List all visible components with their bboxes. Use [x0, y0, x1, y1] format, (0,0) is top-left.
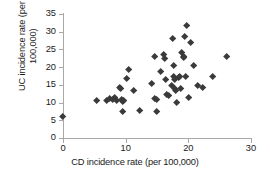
y-tick-label: 30: [16, 27, 56, 36]
data-point: [153, 108, 161, 116]
data-point: [183, 22, 191, 30]
plot-area: [63, 14, 251, 138]
data-point: [190, 62, 198, 70]
data-point: [186, 39, 194, 47]
y-tick-label: 35: [16, 9, 56, 18]
x-tick-label: 10: [111, 144, 141, 153]
data-point: [59, 113, 67, 121]
y-tick-label: 20: [16, 63, 56, 72]
y-tick-label: 0: [16, 133, 56, 142]
y-tick-label: 10: [16, 98, 56, 107]
data-point: [209, 73, 217, 81]
data-point: [223, 53, 231, 61]
data-point: [151, 53, 159, 61]
data-point: [119, 108, 127, 116]
data-point: [199, 84, 207, 92]
scatter-chart-figure: UC incidence rate (per 100,000) 05101520…: [0, 0, 270, 178]
data-point: [169, 35, 177, 43]
x-tick-label: 30: [236, 144, 266, 153]
data-point: [162, 75, 170, 83]
data-point: [123, 75, 131, 83]
data-point: [185, 94, 193, 102]
data-point: [148, 80, 156, 88]
x-axis-title: CD incidence rate (per 100,000): [0, 157, 270, 167]
y-tick-label: 25: [16, 45, 56, 54]
data-point: [173, 99, 181, 107]
x-tick-label: 0: [48, 144, 78, 153]
data-point: [181, 33, 189, 41]
data-point: [130, 87, 138, 95]
data-point: [136, 107, 144, 115]
data-point: [157, 68, 165, 76]
data-point: [161, 55, 169, 63]
data-point: [164, 92, 172, 100]
data-point: [182, 73, 190, 81]
data-point: [153, 96, 161, 104]
y-tick-label: 5: [16, 116, 56, 125]
data-point: [117, 85, 125, 93]
data-point: [92, 97, 100, 105]
x-axis-line: [63, 138, 252, 139]
data-point: [169, 62, 177, 70]
data-point: [125, 66, 133, 74]
y-tick-label: 15: [16, 80, 56, 89]
x-tick-label: 20: [173, 144, 203, 153]
